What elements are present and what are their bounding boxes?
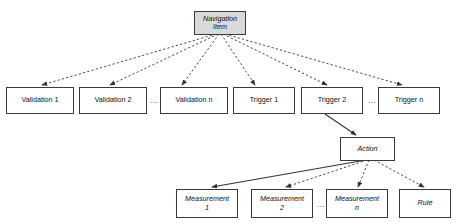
node-trigger-n-label: Trigger n <box>379 96 439 104</box>
node-navigation-item[interactable]: Navigation Item <box>194 11 246 35</box>
node-navigation-item-line2: Item <box>213 22 227 31</box>
edge-action-to-rule <box>374 160 424 187</box>
ellipsis-validation: ... <box>150 97 158 105</box>
edge-action-to-measurement-1 <box>212 160 366 187</box>
ellipsis-measurement: ... <box>317 201 325 209</box>
node-rule[interactable]: Rule <box>399 189 451 218</box>
edge-navigation-item-to-trigger-2 <box>223 34 327 85</box>
edge-action-to-measurement-2 <box>286 160 367 187</box>
node-validation-n-label: Validation n <box>161 96 227 104</box>
node-measurement-n[interactable]: Measurement n <box>326 189 388 218</box>
node-trigger-1-label: Trigger 1 <box>234 96 294 104</box>
node-measurement-2[interactable]: Measurement 2 <box>251 189 313 218</box>
node-rule-label: Rule <box>400 199 450 207</box>
node-validation-n[interactable]: Validation n <box>160 87 228 114</box>
node-validation-2-label: Validation 2 <box>80 96 146 104</box>
node-validation-2[interactable]: Validation 2 <box>79 87 147 114</box>
diagram-canvas: Navigation Item Validation 1 Validation … <box>0 0 456 224</box>
node-measurement-n-line2: n <box>355 203 359 212</box>
node-trigger-2-label: Trigger 2 <box>302 96 362 104</box>
node-trigger-2[interactable]: Trigger 2 <box>301 87 363 114</box>
node-trigger-n[interactable]: Trigger n <box>378 87 440 114</box>
edge-navigation-item-to-validation-2 <box>110 34 218 85</box>
edge-trigger-2-to-action <box>325 114 356 135</box>
node-measurement-1[interactable]: Measurement 1 <box>176 189 238 218</box>
edge-navigation-item-to-trigger-1 <box>221 34 255 85</box>
edge-navigation-item-to-validation-n <box>182 34 219 85</box>
ellipsis-trigger: ... <box>368 97 376 105</box>
node-action-label: Action <box>341 145 394 153</box>
node-measurement-2-line2: 2 <box>280 203 284 212</box>
edge-navigation-item-to-validation-1 <box>42 34 216 85</box>
edge-action-to-measurement-n <box>358 160 369 187</box>
node-action[interactable]: Action <box>340 137 395 161</box>
node-validation-1[interactable]: Validation 1 <box>6 87 74 114</box>
node-trigger-1[interactable]: Trigger 1 <box>233 87 295 114</box>
edge-navigation-item-to-trigger-n <box>225 34 402 85</box>
node-measurement-1-line2: 1 <box>205 203 209 212</box>
node-validation-1-label: Validation 1 <box>7 96 73 104</box>
